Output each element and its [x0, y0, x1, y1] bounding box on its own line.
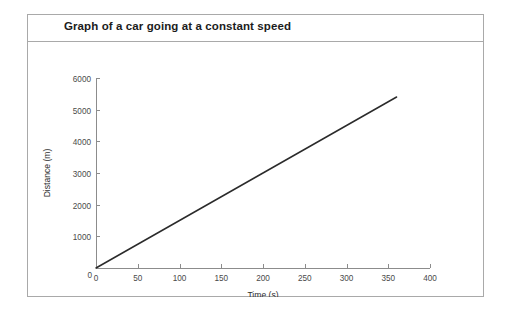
- y-axis-tick-label: 0: [87, 271, 92, 280]
- x-axis-tick-label: 50: [133, 274, 143, 283]
- x-axis-tick-label: 250: [298, 274, 312, 283]
- plot-region: 0501001502002503003504000100020003000400…: [28, 42, 483, 297]
- page-title: Graph of a car going at a constant speed: [64, 20, 291, 32]
- x-axis-tick-label: 150: [214, 274, 228, 283]
- line-chart-svg: 0501001502002503003504000100020003000400…: [28, 42, 485, 297]
- y-axis-tick-label: 3000: [73, 170, 92, 179]
- x-axis-tick-label: 100: [173, 274, 187, 283]
- x-axis-tick-label: 200: [256, 274, 270, 283]
- x-axis-tick-label: 0: [94, 274, 99, 283]
- y-axis-tick-label: 6000: [73, 75, 92, 84]
- y-axis-tick-label: 5000: [73, 107, 92, 116]
- x-axis-title: Time (s): [247, 290, 278, 297]
- data-series-line: [96, 97, 397, 268]
- chart-card: Graph of a car going at a constant speed…: [27, 14, 484, 297]
- y-axis-title: Distance (m): [42, 149, 52, 198]
- x-axis-tick-label: 400: [423, 274, 437, 283]
- y-axis-tick-label: 4000: [73, 138, 92, 147]
- y-axis-tick-label: 1000: [73, 233, 92, 242]
- x-axis-tick-label: 350: [381, 274, 395, 283]
- y-axis-tick-label: 2000: [73, 202, 92, 211]
- x-axis-tick-label: 300: [340, 274, 354, 283]
- chart-title-bar: Graph of a car going at a constant speed: [28, 15, 483, 42]
